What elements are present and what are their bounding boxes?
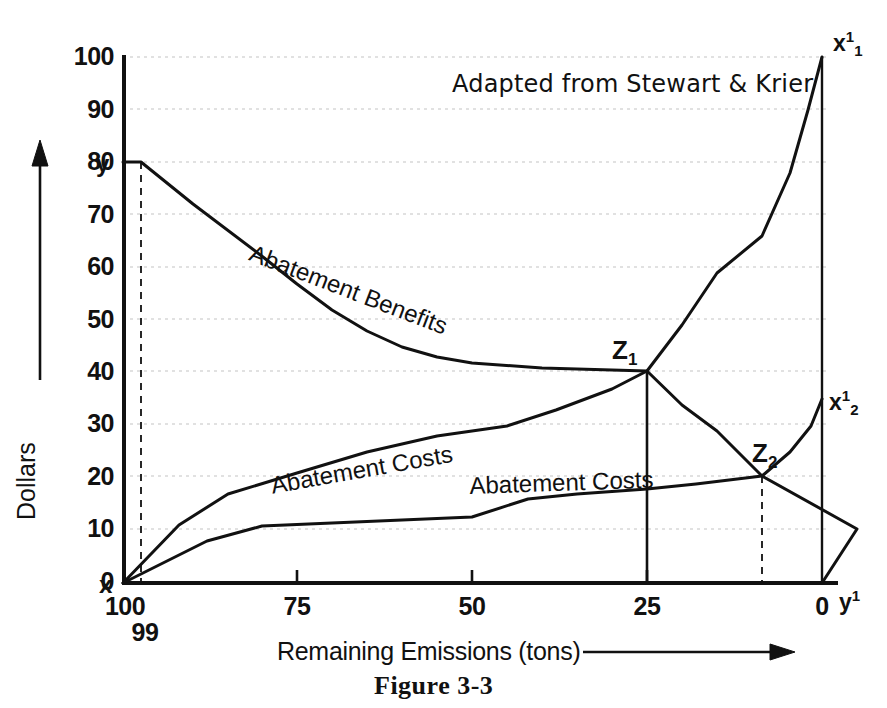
z2-label: Z2 [752, 440, 777, 471]
x-tick-50: 50 [437, 594, 507, 619]
abatement-costs-lower-label: Abatement Costs [469, 468, 654, 498]
x-axis-title: Remaining Emissions (tons) [277, 639, 580, 664]
y-tick-20: 20 [48, 464, 114, 489]
x-axis-ticks [297, 570, 647, 581]
gridlines [123, 57, 830, 529]
y-axis-title: Dollars [14, 442, 39, 520]
y-tick-10: 10 [48, 516, 114, 541]
y-tick-30: 30 [48, 411, 114, 436]
x1-1-sub: 1 [854, 42, 862, 59]
z1-label: Z1 [612, 337, 637, 368]
x-tick-100: 100 [90, 594, 160, 619]
figure-caption: Figure 3-3 [374, 673, 493, 699]
source-note: Adapted from Stewart & Krier [452, 72, 813, 96]
z2-sub: 2 [768, 453, 777, 472]
y-tick-40: 40 [48, 359, 114, 384]
figure-root: 100 90 80 70 60 50 40 30 20 10 0 y x 100… [0, 0, 887, 708]
x1-1-base: x [833, 30, 846, 56]
x1-2-sub: 2 [850, 401, 858, 418]
y-intercept-label: y [96, 152, 109, 176]
dollars-arrow [32, 140, 48, 380]
x-axis-end-sup: 1 [852, 587, 860, 604]
z1-base: Z [612, 335, 628, 365]
y-tick-70: 70 [48, 202, 114, 227]
y-tick-90: 90 [48, 97, 114, 122]
y-tick-50: 50 [48, 307, 114, 332]
z1-sub: 1 [628, 350, 637, 369]
abatement-benefits-curve [123, 162, 857, 583]
y-tick-100: 100 [48, 44, 114, 69]
x-axis-end-label: y1 [839, 588, 860, 614]
x1-1-sup: 1 [846, 28, 854, 45]
x1-2-label: x12 [829, 388, 858, 417]
x-tick-25: 25 [612, 594, 682, 619]
y-tick-60: 60 [48, 254, 114, 279]
x-axis-end-base: y [839, 589, 852, 615]
x-tick-99: 99 [110, 620, 180, 645]
x-tick-75: 75 [262, 594, 332, 619]
emissions-arrow [583, 644, 795, 660]
x1-2-sup: 1 [842, 387, 850, 404]
x1-2-base: x [829, 389, 842, 415]
x1-1-label: x11 [833, 29, 862, 58]
z2-base: Z [752, 438, 768, 468]
abatement-costs-upper-curve [123, 57, 822, 583]
